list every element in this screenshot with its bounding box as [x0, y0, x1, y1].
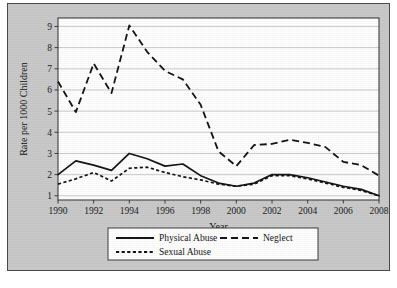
x-tick-label: 2002 [263, 206, 282, 216]
legend-label: Physical Abuse [159, 233, 217, 243]
x-tick-label: 2008 [370, 206, 389, 216]
y-tick-label: 1 [47, 191, 52, 201]
y-axis-title: Rate per 1000 Children [18, 62, 29, 156]
figure-frame: 123456789 199019921994199619982000200220… [7, 3, 390, 271]
y-tick-label: 4 [47, 128, 52, 138]
y-tick-label: 7 [47, 64, 52, 74]
x-tick-label: 2006 [334, 206, 353, 216]
y-tick-label: 2 [47, 170, 52, 180]
x-tick-label: 1992 [84, 206, 103, 216]
y-tick-label: 3 [47, 149, 52, 159]
x-tick-label: 2004 [298, 206, 317, 216]
y-tick-label: 8 [47, 43, 52, 53]
y-tick-label: 5 [47, 107, 52, 117]
legend-label: Neglect [263, 233, 293, 243]
x-tick-label: 1994 [120, 206, 139, 216]
line-chart: 123456789 199019921994199619982000200220… [8, 4, 391, 272]
x-tick-label: 2000 [227, 206, 246, 216]
plot-area-background [58, 18, 379, 200]
x-tick-label: 1990 [49, 206, 68, 216]
x-tick-label: 1996 [156, 206, 175, 216]
y-tick-label: 9 [47, 22, 52, 32]
y-axis-ticks: 123456789 [47, 22, 58, 201]
legend-label: Sexual Abuse [159, 247, 211, 257]
y-tick-label: 6 [47, 85, 52, 95]
chart-legend: Physical AbuseNeglectSexual Abuse [108, 228, 318, 260]
x-axis-ticks: 1990199219941996199820002002200420062008 [49, 200, 389, 216]
x-tick-label: 1998 [191, 206, 210, 216]
